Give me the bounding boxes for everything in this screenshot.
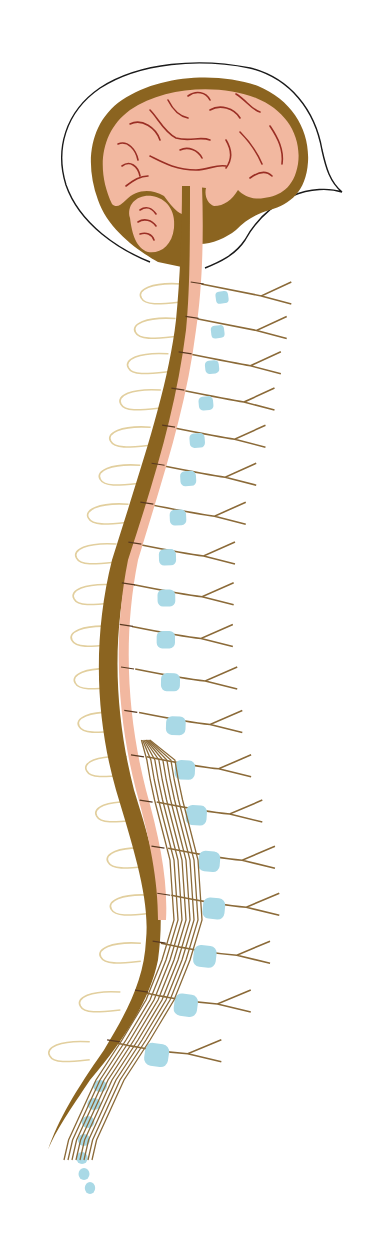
anatomy-figure: Central nervous system: brain and spinal… (0, 0, 365, 1254)
